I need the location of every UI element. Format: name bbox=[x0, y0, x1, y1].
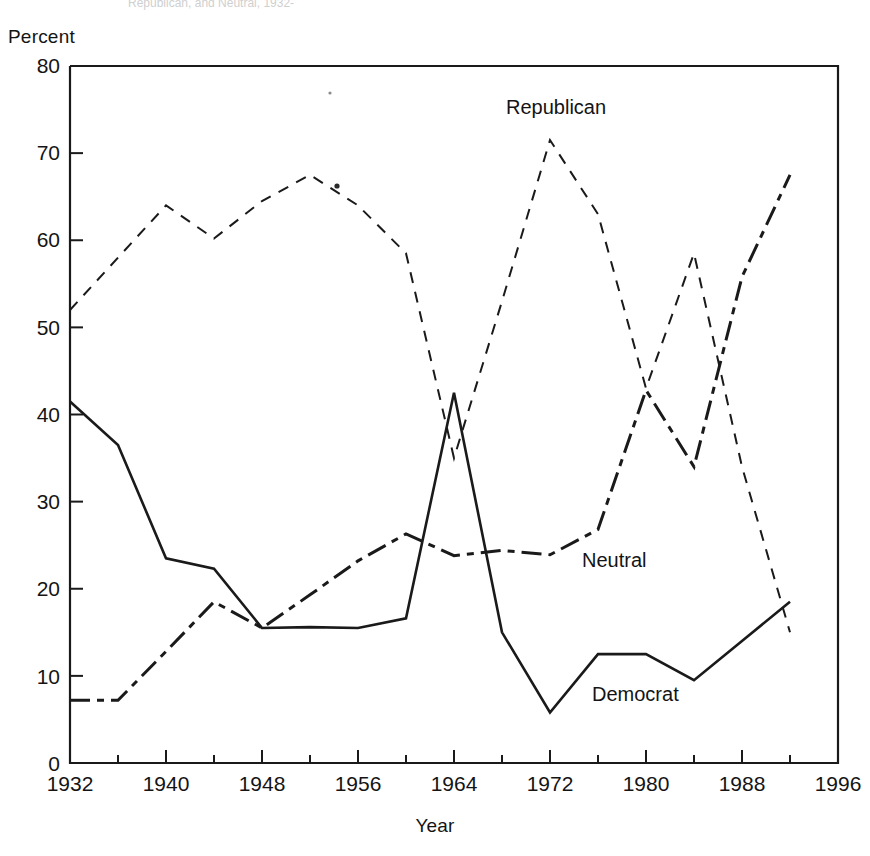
series-line-democrat bbox=[70, 393, 790, 713]
stray-dot-marker bbox=[334, 183, 339, 188]
line-chart-plot bbox=[0, 0, 870, 856]
stray-speck bbox=[328, 91, 331, 94]
y-axis-ticks bbox=[70, 153, 83, 676]
axes-box bbox=[70, 66, 838, 763]
series-line-neutral bbox=[70, 175, 790, 700]
plot-frame bbox=[70, 66, 838, 763]
series-line-republican bbox=[70, 140, 790, 632]
series-layer bbox=[70, 140, 790, 712]
x-axis-ticks bbox=[118, 750, 790, 763]
